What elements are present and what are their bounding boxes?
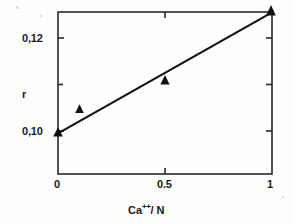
data-marker-2 — [160, 75, 169, 84]
x-axis-title: Ca++/ N — [128, 202, 164, 216]
x-axis-title-tail: / N — [150, 204, 164, 216]
scan-speck — [282, 196, 284, 198]
y-axis-ticks-left — [58, 38, 64, 131]
plot-frame — [58, 12, 272, 174]
x-tick-label-0: 0 — [54, 178, 60, 190]
data-marker-1 — [75, 104, 84, 113]
x-tick-label-0.5: 0.5 — [157, 178, 172, 190]
trend-line — [58, 12, 272, 133]
chart-figure: 0,12 0,10 0 0.5 1 r Ca++/ N — [0, 0, 293, 224]
y-tick-label-0.10: 0,10 — [22, 125, 43, 137]
scan-speck — [16, 6, 19, 9]
y-axis-title: r — [22, 88, 26, 100]
y-tick-label-0.12: 0,12 — [22, 32, 43, 44]
x-axis-title-base: Ca — [128, 204, 142, 216]
scan-speck — [40, 15, 42, 17]
data-marker-3 — [266, 5, 276, 15]
plot-area — [0, 0, 293, 224]
x-tick-label-1: 1 — [267, 178, 273, 190]
y-axis-ticks-right — [266, 38, 272, 131]
